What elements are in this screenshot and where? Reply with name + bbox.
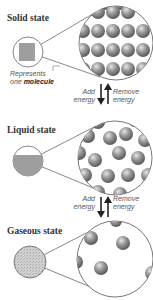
solid-state-panel bbox=[13, 0, 153, 80]
gaseous-state-title: Gaseous state bbox=[7, 226, 62, 236]
add-energy-label-2: Addenergy bbox=[67, 195, 95, 211]
solid-state-title: Solid state bbox=[7, 13, 49, 23]
remove-energy-label-2: Removeenergy bbox=[113, 195, 139, 211]
remove-energy-label-1: Removeenergy bbox=[113, 88, 139, 104]
liquid-state-title: Liquid state bbox=[7, 125, 56, 135]
arrow-down-icon bbox=[97, 98, 105, 105]
add-energy-label-1: Addenergy bbox=[67, 88, 95, 104]
arrow-up-icon bbox=[104, 83, 112, 90]
states-of-matter-diagram bbox=[0, 0, 153, 300]
arrow-down-icon bbox=[97, 211, 105, 218]
transition-arrows-1 bbox=[97, 83, 112, 105]
arrow-up-icon bbox=[104, 196, 112, 203]
transition-arrows-2 bbox=[97, 196, 112, 218]
molecule-note: Represents one molecule bbox=[10, 70, 54, 86]
gas-sample-circle bbox=[14, 246, 46, 278]
